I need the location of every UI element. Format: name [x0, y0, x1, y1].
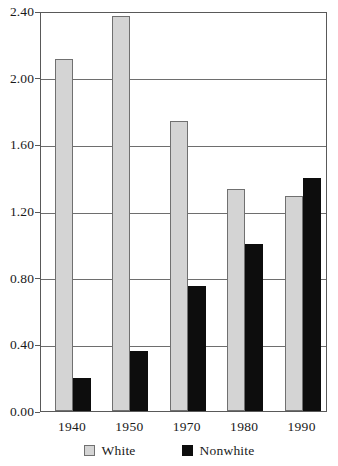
bar-white-1980 — [227, 189, 245, 411]
y-axis-tick-label: 2.40 — [0, 5, 34, 19]
x-axis-tick-label: 1940 — [42, 419, 102, 435]
bar-nonwhite-1950 — [130, 351, 148, 411]
y-axis-tick-label: 0.00 — [0, 405, 34, 419]
bar-white-1940 — [55, 59, 73, 411]
bar-white-1970 — [170, 121, 188, 411]
bar-nonwhite-1980 — [245, 244, 263, 411]
y-axis-tick-label: 1.20 — [0, 205, 34, 219]
bar-white-1990 — [285, 196, 303, 411]
y-axis-tick-label: 1.60 — [0, 138, 34, 152]
x-axis-tick-label: 1980 — [214, 419, 274, 435]
chart-legend: WhiteNonwhite — [0, 444, 338, 458]
x-axis-tick-label: 1990 — [272, 419, 332, 435]
legend-swatch-white-icon — [84, 445, 95, 456]
plot-area — [40, 12, 327, 412]
legend-label: White — [102, 444, 136, 458]
bar-nonwhite-1990 — [303, 178, 321, 411]
legend-label: Nonwhite — [200, 444, 255, 458]
bar-nonwhite-1970 — [188, 286, 206, 411]
y-axis-tick-label: 2.00 — [0, 72, 34, 86]
y-axis-tick-label: 0.80 — [0, 272, 34, 286]
x-axis-tick-label: 1950 — [99, 419, 159, 435]
x-axis-tick-label: 1970 — [157, 419, 217, 435]
legend-entry-white[interactable]: White — [84, 444, 136, 458]
gridline — [41, 79, 326, 80]
bar-white-1950 — [112, 16, 130, 411]
bar-nonwhite-1940 — [73, 378, 91, 411]
y-axis-tick-label: 0.40 — [0, 338, 34, 352]
bar-chart: 0.000.400.801.201.602.002.40 19401950197… — [0, 0, 338, 466]
legend-entry-nonwhite[interactable]: Nonwhite — [182, 444, 255, 458]
legend-swatch-nonwhite-icon — [182, 445, 193, 456]
